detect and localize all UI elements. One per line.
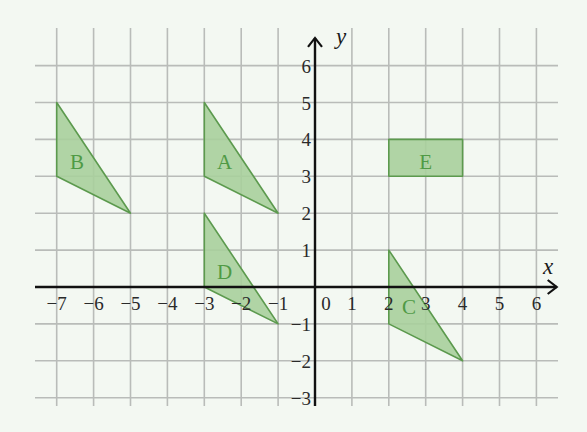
y-tick-label: 6: [302, 56, 312, 77]
coordinate-plane: xy −7−6−5−4−3−2−10123456654321−1−2−3 ABC…: [0, 0, 587, 432]
x-axis-label: x: [542, 254, 554, 279]
shape-label-c: C: [402, 295, 416, 319]
coordinate-grid-diagram: xy −7−6−5−4−3−2−10123456654321−1−2−3 ABC…: [0, 0, 587, 432]
x-tick-label: 5: [495, 293, 505, 314]
y-tick-label: 3: [302, 166, 312, 187]
y-tick-label: 2: [302, 203, 312, 224]
x-tick-label: 2: [384, 293, 394, 314]
x-tick-label: 4: [458, 293, 468, 314]
x-tick-label: 0: [321, 293, 331, 314]
x-tick-label: −3: [194, 293, 214, 314]
y-tick-label: 1: [302, 240, 312, 261]
x-tick-label: −1: [268, 293, 288, 314]
x-tick-label: −5: [120, 293, 140, 314]
shapes-layer: [57, 103, 463, 361]
x-tick-label: 3: [421, 293, 431, 314]
y-tick-label: −1: [291, 314, 311, 335]
shape-label-e: E: [419, 150, 432, 174]
x-tick-label: 1: [347, 293, 357, 314]
tick-labels: −7−6−5−4−3−2−10123456654321−1−2−3: [47, 56, 542, 409]
x-tick-label: −7: [47, 293, 67, 314]
y-tick-label: −3: [291, 388, 311, 409]
y-tick-label: 4: [302, 129, 312, 150]
x-tick-label: −6: [83, 293, 103, 314]
y-axis-label: y: [334, 24, 347, 49]
shape-label-d: D: [217, 260, 232, 284]
y-tick-label: −2: [291, 351, 311, 372]
x-tick-label: −4: [157, 293, 178, 314]
axes: xy: [35, 24, 557, 406]
x-tick-label: 6: [532, 293, 542, 314]
grid-lines: [35, 28, 558, 406]
x-tick-label: −2: [231, 293, 251, 314]
shape-label-a: A: [217, 150, 233, 174]
shape-label-b: B: [70, 150, 84, 174]
y-tick-label: 5: [302, 93, 312, 114]
